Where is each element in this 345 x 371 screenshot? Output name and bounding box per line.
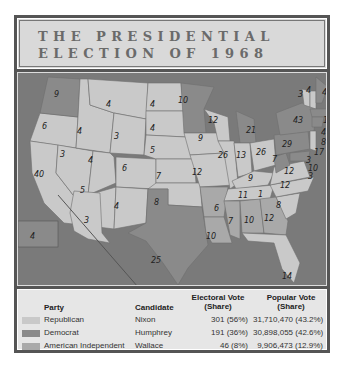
svg-text:3: 3 [84, 216, 89, 225]
svg-text:3: 3 [60, 150, 65, 159]
svg-text:6: 6 [122, 164, 127, 173]
svg-text:26: 26 [256, 148, 266, 157]
svg-text:4: 4 [114, 202, 119, 211]
svg-text:9: 9 [54, 90, 59, 99]
header-popular: Popular Vote (Share) [258, 293, 324, 311]
svg-text:17: 17 [314, 148, 325, 157]
header-candidate: Candidate [135, 303, 174, 312]
svg-text:43: 43 [293, 116, 303, 125]
svg-text:12: 12 [208, 116, 218, 125]
svg-text:13: 13 [236, 151, 246, 160]
svg-text:9: 9 [198, 134, 203, 143]
title-line-1: THE PRESIDENTIAL [38, 29, 275, 44]
svg-text:14: 14 [323, 116, 327, 125]
svg-text:4: 4 [321, 128, 326, 137]
svg-text:40: 40 [34, 170, 44, 179]
svg-text:3: 3 [114, 132, 119, 141]
header-electoral: Electoral Vote (Share) [188, 293, 248, 311]
swatch-republican [22, 317, 40, 324]
state-HI [18, 221, 58, 247]
svg-text:10: 10 [178, 96, 188, 105]
state-CO [116, 157, 156, 189]
svg-text:12: 12 [284, 167, 294, 176]
svg-text:5: 5 [80, 186, 85, 195]
svg-text:21: 21 [246, 126, 256, 135]
svg-text:3: 3 [308, 172, 313, 181]
state-NM [114, 187, 148, 229]
svg-text:4: 4 [306, 86, 311, 95]
svg-text:10: 10 [244, 216, 254, 225]
svg-text:1: 1 [258, 190, 263, 199]
svg-text:4: 4 [150, 124, 155, 133]
svg-text:6: 6 [214, 204, 219, 213]
svg-text:12: 12 [280, 181, 290, 190]
svg-text:4: 4 [30, 232, 35, 241]
state-KS [156, 159, 196, 183]
svg-text:12: 12 [192, 168, 202, 177]
legend-table: Party Candidate Electoral Vote (Share) P… [17, 289, 327, 350]
svg-text:8: 8 [154, 198, 159, 207]
svg-text:25: 25 [151, 256, 161, 265]
title-box: THE PRESIDENTIAL ELECTION OF 1968 [17, 18, 327, 69]
header-party: Party [44, 303, 64, 312]
svg-text:4: 4 [106, 100, 111, 109]
svg-text:12: 12 [264, 214, 274, 223]
swatch-american-independent [22, 343, 40, 350]
svg-text:26: 26 [218, 151, 228, 160]
svg-text:3: 3 [298, 90, 303, 99]
title-line-2: ELECTION OF 1968 [38, 46, 268, 61]
swatch-democrat [22, 330, 40, 337]
svg-text:8: 8 [321, 138, 326, 147]
svg-text:5: 5 [150, 146, 155, 155]
svg-text:8: 8 [276, 201, 281, 210]
svg-text:10: 10 [206, 232, 216, 241]
svg-text:4: 4 [77, 127, 82, 136]
svg-text:11: 11 [238, 191, 248, 200]
svg-text:4: 4 [322, 88, 327, 97]
svg-text:4: 4 [150, 100, 155, 109]
svg-text:4: 4 [88, 156, 93, 165]
svg-text:29: 29 [282, 140, 292, 149]
svg-text:14: 14 [282, 272, 292, 281]
us-map: 96 403 44 34 56 44 45 78 2510 912 610 12… [17, 72, 327, 286]
svg-text:6: 6 [42, 122, 47, 131]
svg-text:9: 9 [248, 174, 253, 183]
us-map-svg: 96 403 44 34 56 44 45 78 2510 912 610 12… [18, 73, 327, 286]
